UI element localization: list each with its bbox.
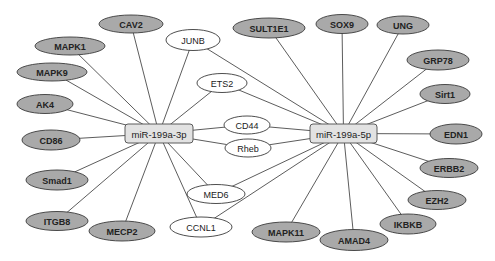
edge-mir5p-mapk11 <box>286 134 344 233</box>
node-label: ITGB8 <box>44 217 71 227</box>
node-smad1[interactable]: Smad1 <box>26 170 88 190</box>
nodes-layer: CAV2MAPK1MAPK9AK4CD86Smad1ITGB8MECP2JUNB… <box>17 15 482 251</box>
node-label: AK4 <box>36 100 54 110</box>
node-ikbkb[interactable]: IKBKB <box>380 214 436 234</box>
hub-mir5p[interactable]: miR-199a-5p <box>310 124 377 143</box>
node-label: MED6 <box>203 190 228 200</box>
edge-mir5p-amad4 <box>344 134 355 241</box>
node-label: Smad1 <box>42 176 72 186</box>
node-cd44[interactable]: CD44 <box>224 116 270 134</box>
node-label: CD44 <box>235 121 258 131</box>
node-label: MAPK9 <box>36 68 68 78</box>
edge-mir5p-ccnl1 <box>201 134 344 228</box>
edge-mir5p-sox9 <box>342 24 344 134</box>
node-label: AMAD4 <box>338 236 370 246</box>
node-label: ETS2 <box>211 79 234 89</box>
node-ung[interactable]: UNG <box>377 16 429 34</box>
node-label: GRP78 <box>423 56 453 66</box>
node-rheb[interactable]: Rheb <box>225 139 271 157</box>
node-grp78[interactable]: GRP78 <box>407 50 469 70</box>
node-mecp2[interactable]: MECP2 <box>89 221 155 241</box>
node-mapk11[interactable]: MAPK11 <box>252 222 320 242</box>
node-label: SOX9 <box>330 20 354 30</box>
node-mapk1[interactable]: MAPK1 <box>35 37 105 55</box>
mirna-target-network-diagram: CAV2MAPK1MAPK9AK4CD86Smad1ITGB8MECP2JUNB… <box>0 0 495 261</box>
node-med6[interactable]: MED6 <box>187 185 245 204</box>
node-label: CAV2 <box>119 20 142 30</box>
node-label: ERBB2 <box>434 164 465 174</box>
node-label: JUNB <box>181 36 205 46</box>
node-ets2[interactable]: ETS2 <box>197 74 247 93</box>
edge-mir5p-ung <box>344 25 404 134</box>
node-ak4[interactable]: AK4 <box>17 95 73 114</box>
hub-label: miR-199a-5p <box>316 129 371 140</box>
node-label: CD86 <box>39 136 62 146</box>
node-erbb2[interactable]: ERBB2 <box>420 159 478 178</box>
node-edn1[interactable]: EDN1 <box>430 124 482 144</box>
node-ezh2[interactable]: EZH2 <box>408 191 466 210</box>
hub-mir3p[interactable]: miR-199a-3p <box>125 124 193 143</box>
node-label: EDN1 <box>444 130 468 140</box>
node-mapk9[interactable]: MAPK9 <box>17 63 87 81</box>
hub-label: miR-199a-3p <box>132 129 187 140</box>
node-label: MAPK11 <box>268 228 304 238</box>
node-cav2[interactable]: CAV2 <box>99 15 163 33</box>
edge-mir5p-ikbkb <box>344 134 409 225</box>
node-label: EZH2 <box>425 196 448 206</box>
node-label: IKBKB <box>394 220 423 230</box>
node-label: Rheb <box>237 144 259 154</box>
node-label: MAPK1 <box>54 42 86 52</box>
node-cd86[interactable]: CD86 <box>22 130 80 150</box>
node-label: CCNL1 <box>186 223 216 233</box>
node-label: UNG <box>393 21 413 31</box>
node-label: SULT1E1 <box>250 24 289 34</box>
node-itgb8[interactable]: ITGB8 <box>26 212 88 231</box>
node-label: Sirt1 <box>435 90 455 100</box>
node-sirt1[interactable]: Sirt1 <box>420 85 470 104</box>
node-amad4[interactable]: AMAD4 <box>320 230 388 251</box>
edge-mir3p-cav2 <box>131 24 159 134</box>
edge-mir3p-ccnl1 <box>159 134 201 228</box>
node-sult1e1[interactable]: SULT1E1 <box>233 18 305 38</box>
node-junb[interactable]: JUNB <box>166 30 220 51</box>
node-sox9[interactable]: SOX9 <box>316 15 368 34</box>
node-ccnl1[interactable]: CCNL1 <box>170 217 232 237</box>
node-label: MECP2 <box>106 227 137 237</box>
